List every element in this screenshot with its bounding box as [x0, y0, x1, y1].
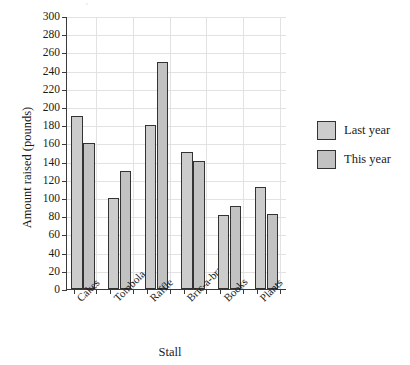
y-tick-label: 20 [49, 266, 61, 278]
gridline-horizontal [67, 126, 286, 127]
bar-cakes-last-year [71, 116, 83, 289]
y-tick-label: 40 [49, 248, 61, 260]
y-tick-mark [62, 272, 67, 273]
bar-cakes-this-year [83, 143, 95, 289]
bar-plants-last-year [255, 187, 267, 289]
chart-legend: Last year This year [317, 116, 407, 174]
y-tick-mark [62, 199, 67, 200]
gridline-vertical [280, 17, 281, 289]
legend-item-this-year: This year [317, 145, 407, 174]
y-tick-label: 100 [43, 193, 60, 205]
bar-bric-a-brac-this-year [193, 161, 205, 289]
gridline-vertical [243, 17, 244, 289]
bar-tombola-this-year [120, 171, 132, 289]
y-tick-mark [62, 290, 67, 291]
gridline-horizontal [67, 272, 286, 273]
y-tick-mark [62, 90, 67, 91]
y-tick-label: 0 [54, 284, 60, 296]
gridline-horizontal [67, 199, 286, 200]
y-tick-label: 160 [43, 139, 60, 151]
y-tick-mark [62, 144, 67, 145]
y-tick-label: 200 [43, 102, 60, 114]
y-tick-mark [62, 217, 67, 218]
y-tick-label: 180 [43, 120, 60, 132]
gridline-horizontal [67, 163, 286, 164]
gridline-vertical [206, 17, 207, 289]
gridline-vertical [170, 17, 171, 289]
y-tick-label: 220 [43, 84, 60, 96]
y-tick-mark [62, 53, 67, 54]
y-tick-mark [62, 108, 67, 109]
scan-artifact-mark: ' [86, 1, 88, 11]
y-tick-label: 120 [43, 175, 60, 187]
x-tick-mark [110, 289, 111, 294]
legend-swatch-this-year [317, 150, 336, 169]
gridline-horizontal [67, 108, 286, 109]
legend-swatch-last-year [317, 121, 336, 140]
y-tick-label: 80 [49, 211, 61, 223]
gridline-horizontal [67, 144, 286, 145]
y-tick-label: 280 [43, 29, 60, 41]
y-tick-mark [62, 35, 67, 36]
bar-books-last-year [218, 215, 230, 289]
y-tick-label: 260 [43, 48, 60, 60]
gridline-horizontal [67, 53, 286, 54]
gridline-horizontal [67, 254, 286, 255]
y-tick-label: 300 [43, 11, 60, 23]
y-axis-title: Amount raised (pounds) [20, 73, 35, 263]
plot-area: 0204060801001201401601802002202402602803… [66, 17, 286, 290]
y-tick-mark [62, 163, 67, 164]
gridline-horizontal [67, 90, 286, 91]
y-tick-mark [62, 235, 67, 236]
bar-tombola-last-year [108, 198, 120, 289]
bar-raffle-last-year [145, 125, 157, 289]
gridline-horizontal [67, 181, 286, 182]
bar-bric-a-brac-last-year [181, 152, 193, 289]
y-tick-label: 60 [49, 230, 61, 242]
gridline-vertical [133, 17, 134, 289]
gridline-horizontal [67, 235, 286, 236]
bar-raffle-this-year [157, 62, 169, 290]
y-tick-mark [62, 254, 67, 255]
gridline-horizontal [67, 72, 286, 73]
gridline-horizontal [67, 17, 286, 18]
x-axis-title: Stall [55, 345, 285, 360]
legend-item-last-year: Last year [317, 116, 407, 145]
y-tick-mark [62, 126, 67, 127]
bar-chart-figure: ' Amount raised (pounds) 020406080100120… [0, 0, 410, 365]
gridline-horizontal [67, 217, 286, 218]
gridline-horizontal [67, 35, 286, 36]
legend-label-last-year: Last year [344, 123, 390, 138]
y-tick-mark [62, 17, 67, 18]
legend-label-this-year: This year [344, 152, 391, 167]
gridline-vertical [96, 17, 97, 289]
y-tick-label: 240 [43, 66, 60, 78]
y-tick-mark [62, 181, 67, 182]
y-tick-mark [62, 72, 67, 73]
x-tick-mark [220, 289, 221, 294]
y-tick-label: 140 [43, 157, 60, 169]
